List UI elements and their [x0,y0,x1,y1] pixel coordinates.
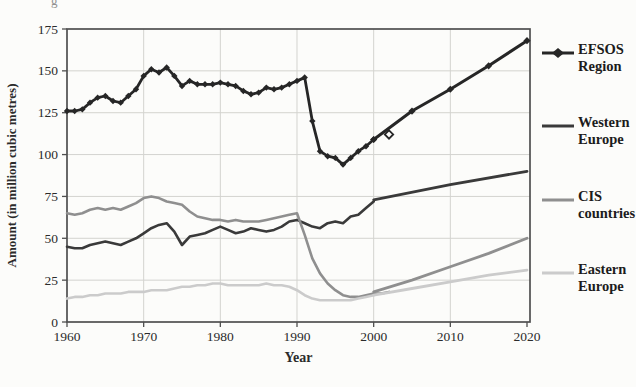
svg-text:125: 125 [38,105,59,120]
svg-text:150: 150 [38,63,59,78]
line-chart-figure: g 02550751001251501751960197019801990200… [0,0,636,387]
legend-label-eastern-europe: Eastern Europe [578,261,636,295]
svg-text:100: 100 [38,147,59,162]
svg-text:1990: 1990 [284,329,311,344]
legend-item-cis-countries: CIS countries [541,188,636,222]
legend-label-western-europe: Western Europe [578,114,636,148]
legend-item-efsos-region: EFSOS Region [541,41,636,75]
svg-text:2020: 2020 [514,329,541,344]
svg-text:75: 75 [45,189,59,204]
svg-text:25: 25 [45,273,59,288]
chart-legend: EFSOS Region Western Europe CIS countrie… [541,0,636,387]
legend-label-cis-countries: CIS countries [578,188,636,222]
svg-text:1970: 1970 [130,329,157,344]
efsos-region-line-icon [541,47,575,59]
svg-text:1960: 1960 [54,329,81,344]
legend-label-efsos-region: EFSOS Region [578,41,636,75]
svg-text:175: 175 [38,22,59,37]
svg-text:2010: 2010 [437,329,464,344]
cis-countries-line-icon [541,194,575,206]
eastern-europe-line-icon [541,267,575,279]
svg-text:Year: Year [285,350,313,365]
svg-text:0: 0 [51,315,58,330]
svg-text:Amount (in million cubic metre: Amount (in million cubic metres) [4,84,19,268]
western-europe-line-icon [541,120,575,132]
legend-item-western-europe: Western Europe [541,114,636,148]
svg-text:1980: 1980 [207,329,234,344]
svg-text:50: 50 [45,231,59,246]
svg-text:2000: 2000 [360,329,387,344]
legend-item-eastern-europe: Eastern Europe [541,261,636,295]
